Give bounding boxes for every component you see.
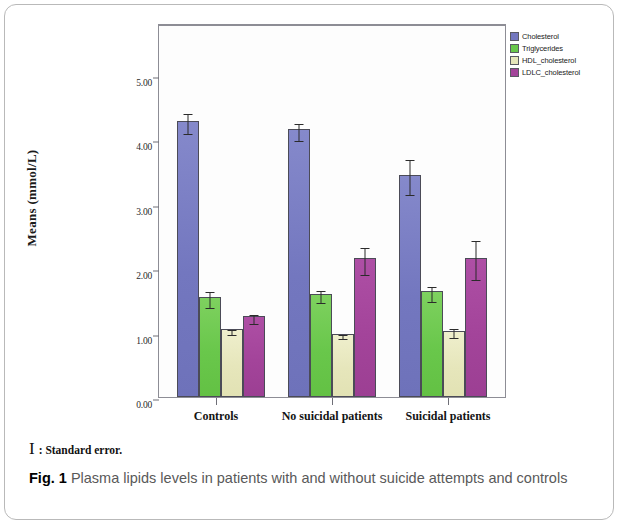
error-bar-stem bbox=[476, 241, 477, 280]
legend-item[interactable]: LDLC_cholesterol bbox=[510, 67, 610, 78]
bar-triglycerides[interactable] bbox=[310, 294, 332, 397]
error-bar-cap-lower bbox=[227, 335, 236, 336]
bar-slot bbox=[465, 26, 487, 397]
legend-item[interactable]: HDL_cholesterol bbox=[510, 55, 610, 66]
bar-slot bbox=[243, 26, 265, 397]
error-bar-stem bbox=[320, 291, 321, 303]
error-bar-stem bbox=[410, 160, 411, 195]
bar-slot bbox=[421, 26, 443, 397]
bar-ldlc-cholesterol[interactable] bbox=[354, 258, 376, 397]
error-bar-stem bbox=[432, 287, 433, 302]
bar-slot bbox=[310, 26, 332, 397]
error-bar-stem bbox=[253, 315, 254, 324]
x-axis: ControlsNo suicidal patientsSuicidal pat… bbox=[158, 398, 506, 442]
bar-group bbox=[399, 26, 487, 397]
error-bar-cap-upper bbox=[205, 292, 214, 293]
legend-item[interactable]: Cholesterol bbox=[510, 31, 610, 42]
legend-item[interactable]: Triglycerides bbox=[510, 43, 610, 54]
error-bar-cap-upper bbox=[227, 330, 236, 331]
error-bar-stem bbox=[364, 248, 365, 275]
figure-card: Means (mmol/L) 0.001.002.003.004.005.00 … bbox=[4, 4, 614, 520]
error-bar-cap-lower bbox=[316, 303, 325, 304]
bar-group bbox=[288, 26, 376, 397]
error-bar-cap-lower bbox=[183, 134, 192, 135]
legend-label: Triglycerides bbox=[522, 44, 563, 53]
bar-group bbox=[177, 26, 265, 397]
error-bar-stem bbox=[187, 114, 188, 133]
error-bar-glyph: I bbox=[29, 440, 35, 457]
x-tick-label: No suicidal patients bbox=[267, 409, 397, 423]
bar-hdl-cholesterol[interactable] bbox=[332, 334, 354, 397]
error-bar-cap-lower bbox=[428, 302, 437, 303]
figure-caption: Fig. 1 Plasma lipids levels in patients … bbox=[29, 468, 594, 488]
error-bar-cap-lower bbox=[360, 275, 369, 276]
bar-slot bbox=[199, 26, 221, 397]
bar-triglycerides[interactable] bbox=[421, 291, 443, 397]
plot-inner: 0.001.002.003.004.005.00 bbox=[159, 26, 505, 397]
x-tick-label: Controls bbox=[151, 409, 281, 423]
standard-error-footnote: I : Standard error. bbox=[29, 440, 122, 457]
error-bar-cap-lower bbox=[472, 280, 481, 281]
bar-cholesterol[interactable] bbox=[288, 129, 310, 397]
x-tick-mark bbox=[216, 398, 217, 405]
error-bar-cap-upper bbox=[428, 287, 437, 288]
bar-slot bbox=[332, 26, 354, 397]
bar-cholesterol[interactable] bbox=[177, 121, 199, 397]
error-bar-cap-lower bbox=[249, 324, 258, 325]
error-bar-cap-upper bbox=[316, 291, 325, 292]
error-bar-cap-upper bbox=[406, 160, 415, 161]
error-bar-stem bbox=[454, 329, 455, 338]
chart-legend: CholesterolTriglyceridesHDL_cholesterolL… bbox=[510, 31, 610, 79]
bar-slot bbox=[354, 26, 376, 397]
x-tick-mark bbox=[332, 398, 333, 405]
bar-cholesterol[interactable] bbox=[399, 175, 421, 397]
error-bar-cap-upper bbox=[294, 124, 303, 125]
error-bar-cap-lower bbox=[338, 339, 347, 340]
error-bar-stem bbox=[298, 124, 299, 141]
bar-slot bbox=[177, 26, 199, 397]
error-bar-cap-upper bbox=[338, 335, 347, 336]
error-bar-cap-upper bbox=[472, 241, 481, 242]
bar-groups bbox=[159, 26, 505, 397]
bar-slot bbox=[399, 26, 421, 397]
legend-label: Cholesterol bbox=[522, 32, 559, 41]
footnote-label: : Standard error. bbox=[39, 444, 122, 456]
bar-hdl-cholesterol[interactable] bbox=[443, 331, 465, 397]
legend-label: HDL_cholesterol bbox=[522, 56, 576, 65]
legend-label: LDLC_cholesterol bbox=[522, 68, 580, 77]
error-bar-cap-upper bbox=[450, 329, 459, 330]
error-bar-cap-upper bbox=[183, 114, 192, 115]
error-bar-cap-lower bbox=[294, 141, 303, 142]
bar-slot bbox=[288, 26, 310, 397]
legend-swatch-icon bbox=[510, 44, 519, 53]
error-bar-cap-lower bbox=[205, 308, 214, 309]
error-bar-cap-lower bbox=[406, 195, 415, 196]
bar-triglycerides[interactable] bbox=[199, 297, 221, 397]
legend-swatch-icon bbox=[510, 68, 519, 77]
legend-swatch-icon bbox=[510, 56, 519, 65]
x-tick-mark bbox=[448, 398, 449, 405]
error-bar-cap-lower bbox=[450, 338, 459, 339]
error-bar-cap-upper bbox=[249, 315, 258, 316]
error-bar-stem bbox=[209, 292, 210, 309]
y-axis-title: Means (mmol/L) bbox=[24, 113, 40, 283]
bar-hdl-cholesterol[interactable] bbox=[221, 329, 243, 397]
legend-swatch-icon bbox=[510, 32, 519, 41]
bar-ldlc-cholesterol[interactable] bbox=[243, 316, 265, 397]
figure-number: Fig. 1 bbox=[29, 470, 67, 486]
chart-figure: Means (mmol/L) 0.001.002.003.004.005.00 … bbox=[5, 5, 614, 437]
figure-caption-text: Plasma lipids levels in patients with an… bbox=[71, 470, 567, 486]
error-bar-cap-upper bbox=[360, 248, 369, 249]
plot-area: 0.001.002.003.004.005.00 bbox=[158, 24, 506, 398]
bar-slot bbox=[443, 26, 465, 397]
bar-slot bbox=[221, 26, 243, 397]
x-tick-label: Suicidal patients bbox=[383, 409, 513, 423]
